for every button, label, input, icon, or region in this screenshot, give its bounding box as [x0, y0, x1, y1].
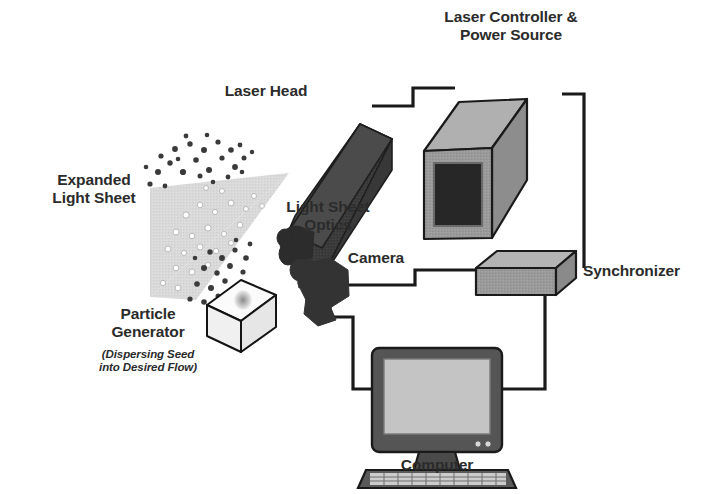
- monitor-screen: [384, 359, 490, 434]
- laser-controller: [424, 99, 527, 239]
- laser-controller-panel: [434, 163, 482, 226]
- synchronizer: [476, 251, 576, 295]
- seed-emission-spot: [234, 290, 252, 310]
- label-camera: Camera: [328, 249, 424, 267]
- wire-camera-to-synchronizer: [345, 270, 487, 285]
- label-light-sheet-optics: Light Sheet Optics: [262, 198, 394, 233]
- monitor-power-led: [475, 441, 481, 447]
- label-particle-generator-subtitle: (Dispersing Seed into Desired Flow): [72, 348, 224, 374]
- label-laser-head: Laser Head: [196, 82, 336, 100]
- camera-body-mass: [307, 261, 347, 305]
- monitor-status-led: [485, 441, 491, 447]
- label-particle-generator: Particle Generator: [80, 305, 216, 340]
- piv-system-diagram: Laser Controller & Power Source Laser He…: [0, 0, 726, 494]
- wire-laserhead-to-controller: [372, 88, 455, 106]
- label-synchronizer: Synchronizer: [583, 262, 719, 280]
- synchronizer-front: [476, 268, 556, 295]
- keyboard-keys: [370, 473, 506, 485]
- label-laser-controller: Laser Controller & Power Source: [396, 8, 626, 43]
- camera-lens-front: [290, 259, 310, 281]
- expanded-light-sheet: [147, 168, 290, 302]
- label-expanded-light-sheet: Expanded Light Sheet: [28, 171, 160, 206]
- diagram-canvas: [0, 0, 726, 494]
- label-computer: Computer: [370, 456, 504, 474]
- particle-generator: [207, 280, 276, 352]
- wire-synchronizer-to-computer: [497, 290, 545, 389]
- wire-controller-to-synchronizer: [562, 94, 584, 268]
